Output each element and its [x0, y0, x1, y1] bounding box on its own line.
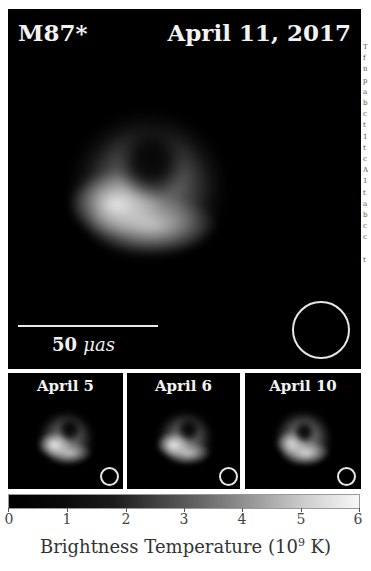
caption-line-fragment: c [363, 232, 371, 243]
caption-line-fragment: t [363, 188, 371, 199]
caption-line-fragment: n [363, 64, 371, 75]
inset-date-label: April 5 [8, 377, 123, 395]
caption-line-fragment: t [363, 255, 371, 266]
colorbar-tick-label: 5 [291, 511, 311, 527]
beam-circle-icon [337, 467, 356, 486]
black-hole-ring-image [155, 409, 215, 467]
caption-line-fragment: c [363, 221, 371, 232]
colorbar-tick-label: 4 [232, 511, 252, 527]
axis-label-unit: K) [305, 536, 331, 557]
black-hole-ring-image [36, 409, 96, 467]
scale-unit: μas [83, 334, 115, 355]
colorbar-tick-label: 6 [348, 511, 368, 527]
colorbar-tick-label: 0 [0, 511, 19, 527]
object-label: M87* [18, 19, 88, 46]
caption-line-fragment: a [363, 87, 371, 98]
caption-line-fragment: b [363, 210, 371, 221]
caption-line-fragment: t [363, 120, 371, 131]
beam-circle-icon [100, 467, 119, 486]
colorbar-tick-label: 1 [57, 511, 77, 527]
axis-label-text: Brightness Temperature (10 [40, 536, 298, 557]
scale-bar-label: 50 μas [52, 334, 115, 355]
caption-line-fragment: c [363, 109, 371, 120]
scale-bar [18, 325, 158, 327]
colorbar-axis-label: Brightness Temperature (109 K) [0, 536, 371, 557]
colorbar [8, 494, 360, 509]
caption-line-fragment: t [363, 143, 371, 154]
caption-line-fragment: f [363, 53, 371, 64]
caption-line-fragment: a [363, 199, 371, 210]
date-label: April 11, 2017 [167, 19, 351, 46]
beam-circle-icon [292, 301, 350, 359]
black-hole-ring-image [273, 409, 333, 467]
inset-panel-april-10: April 10 [245, 373, 361, 489]
colorbar-tick-label: 3 [174, 511, 194, 527]
scale-value: 50 [52, 334, 77, 355]
beam-circle-icon [219, 467, 238, 486]
inset-panel-april-5: April 5 [8, 373, 123, 489]
inset-panel-april-6: April 6 [127, 373, 240, 489]
inset-date-label: April 6 [127, 377, 240, 395]
cropped-caption-text: Tfnpabct1tcA1tabcc t [363, 42, 371, 266]
caption-line-fragment: c [363, 154, 371, 165]
axis-label-exponent: 9 [298, 536, 305, 549]
main-image-panel: M87* April 11, 2017 50 μas [8, 9, 361, 369]
caption-line-fragment: T [363, 42, 371, 53]
caption-line-fragment: 1 [363, 132, 371, 143]
black-hole-ring-image [68, 111, 228, 261]
caption-line-fragment: 1 [363, 176, 371, 187]
caption-line-fragment [363, 244, 371, 255]
inset-date-label: April 10 [245, 377, 361, 395]
caption-line-fragment: b [363, 98, 371, 109]
colorbar-tick-label: 2 [116, 511, 136, 527]
caption-line-fragment: A [363, 165, 371, 176]
caption-line-fragment: p [363, 76, 371, 87]
